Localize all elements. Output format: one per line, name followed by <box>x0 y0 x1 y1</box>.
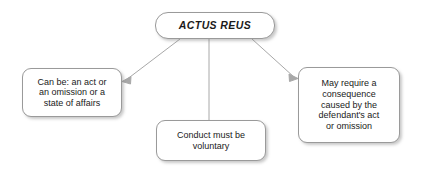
node-actus-reus[interactable]: ACTUS REUS <box>155 12 275 39</box>
node-conduct-voluntary-label: Conduct must be voluntary <box>177 130 245 151</box>
node-actus-reus-label: ACTUS REUS <box>179 19 251 31</box>
edge-root-to-right <box>252 39 294 77</box>
node-may-require-consequence[interactable]: May require a consequence caused by the … <box>298 67 400 143</box>
node-can-be-label: Can be: an act or an omission or a state… <box>37 77 106 109</box>
diagram-canvas: ACTUS REUS Can be: an act or an omission… <box>0 0 424 180</box>
node-may-require-consequence-label: May require a consequence caused by the … <box>319 78 380 131</box>
arrowhead-left-icon <box>122 77 131 85</box>
arrowhead-right-icon <box>289 74 298 82</box>
node-conduct-voluntary[interactable]: Conduct must be voluntary <box>156 120 266 161</box>
node-can-be[interactable]: Can be: an act or an omission or a state… <box>22 68 122 117</box>
edge-root-to-left <box>126 39 180 80</box>
